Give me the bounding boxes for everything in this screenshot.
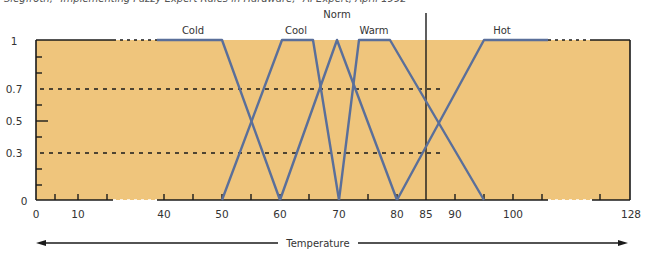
y-tick-label: 0.5 — [6, 115, 23, 127]
x-tick-label: 10 — [71, 208, 84, 220]
x-tick-label: 0 — [33, 208, 40, 220]
x-tick-label: 60 — [273, 208, 286, 220]
x-tick-label: 40 — [157, 208, 170, 220]
label-norm: Norm — [323, 9, 350, 20]
x-tick-label: 80 — [390, 208, 403, 220]
label-cold: Cold — [182, 25, 204, 36]
arrow-left-icon — [36, 240, 46, 246]
plot-area — [36, 40, 630, 200]
x-tick-label: 70 — [332, 208, 345, 220]
x-tick-label: 85 — [419, 208, 432, 220]
membership-chart: Cold Cool Norm Warm Hot 1 0.7 0.5 0.3 0 … — [0, 0, 649, 258]
x-tick-label: 90 — [448, 208, 461, 220]
x-tick-label: 128 — [621, 208, 641, 220]
x-tick-label: 100 — [503, 208, 523, 220]
y-tick-label: 0.3 — [6, 147, 23, 159]
label-warm: Warm — [359, 25, 388, 36]
x-tick-label: 50 — [215, 208, 228, 220]
y-tick-label: 0 — [21, 195, 28, 207]
y-tick-label: 1 — [11, 35, 18, 47]
arrow-right-icon — [618, 240, 628, 246]
label-hot: Hot — [493, 25, 511, 36]
x-axis-label: Temperature — [285, 238, 349, 249]
label-cool: Cool — [285, 25, 307, 36]
y-tick-label: 0.7 — [6, 83, 23, 95]
